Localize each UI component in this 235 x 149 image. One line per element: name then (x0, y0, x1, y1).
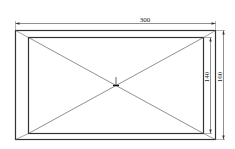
corner-line-tr (204, 31, 216, 38)
corner-line-bl (16, 134, 29, 140)
corner-line-tl (16, 31, 29, 38)
technical-drawing: 300 140 160 (0, 0, 235, 149)
dimension-label-inner-height: 140 (203, 71, 211, 82)
dimension-label-outer-height: 160 (216, 71, 224, 82)
corner-line-br (204, 134, 216, 140)
dimension-label-width: 300 (140, 16, 151, 24)
